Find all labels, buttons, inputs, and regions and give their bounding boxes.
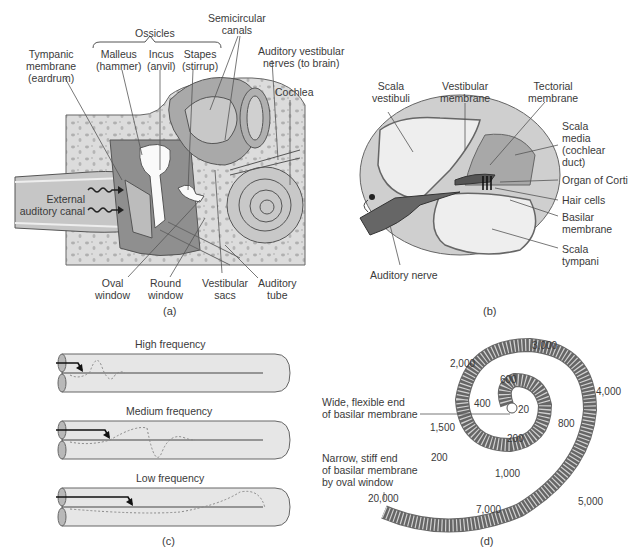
label-vestibular-membrane: Vestibular membrane	[440, 80, 490, 104]
freq-800: 800	[558, 418, 575, 429]
freq-2000: 2,000	[450, 358, 475, 369]
label-basilar-membrane: Basilar membrane	[562, 211, 612, 235]
label-ossicles: Ossicles	[135, 27, 175, 39]
panel-c-frequency-tubes	[56, 354, 290, 526]
freq-1000: 1,000	[495, 468, 520, 479]
caption-d: (d)	[480, 535, 493, 547]
freq-20000: 20,000	[368, 493, 399, 504]
caption-a: (a)	[163, 305, 176, 317]
tube-high	[56, 354, 290, 392]
label-auditory-tube: Auditory tube	[258, 277, 297, 301]
label-wide-end: Wide, flexible end of basilar membrane	[322, 396, 418, 420]
panel-b-cochlea-cross-section	[360, 95, 560, 265]
label-cochlea: Cochlea	[275, 86, 314, 98]
label-auditory-nerve: Auditory nerve	[370, 269, 438, 281]
label-scala-tympani: Scala tympani	[562, 243, 599, 267]
freq-1500: 1,500	[430, 422, 455, 433]
freq-600: 600	[500, 374, 517, 385]
label-oval-window: Oval window	[95, 277, 130, 301]
freq-5000: 5,000	[578, 496, 603, 507]
label-semicircular-canals: Semicircular canals	[208, 12, 266, 36]
freq-200: 200	[507, 433, 524, 444]
label-medium-frequency: Medium frequency	[126, 405, 212, 417]
label-high-frequency: High frequency	[135, 338, 206, 350]
freq-4000: 4,000	[596, 386, 621, 397]
label-tectorial-membrane: Tectorial membrane	[528, 80, 578, 104]
label-narrow-end: Narrow, stiff end of basilar membrane by…	[322, 452, 418, 488]
label-hair-cells: Hair cells	[562, 194, 605, 206]
freq-3000: 3,000	[532, 340, 557, 351]
label-scala-vestibuli: Scala vestibuli	[372, 80, 410, 104]
label-external-auditory-canal: External auditory canal	[10, 193, 85, 217]
stray-200-label: 200	[431, 452, 448, 463]
tube-medium	[56, 421, 290, 459]
tube-low	[56, 488, 290, 526]
caption-c: (c)	[162, 535, 175, 547]
label-vestibular-sacs: Vestibular sacs	[202, 277, 248, 301]
label-incus: Incus (anvil)	[147, 48, 176, 72]
label-round-window: Round window	[148, 277, 183, 301]
label-scala-media: Scala media (cochlear duct)	[562, 120, 605, 168]
label-stapes: Stapes (stirrup)	[182, 48, 218, 72]
label-tympanic-membrane: Tympanic membrane (eardrum)	[26, 48, 76, 84]
label-malleus: Malleus (hammer)	[96, 48, 142, 72]
label-low-frequency: Low frequency	[136, 472, 204, 484]
panel-d-basilar-spiral	[384, 345, 590, 526]
freq-7000: 7,000	[476, 504, 501, 515]
caption-b: (b)	[483, 305, 496, 317]
label-auditory-vestibular-nerves: Auditory vestibular nerves (to brain)	[258, 45, 344, 69]
label-organ-of-corti: Organ of Corti	[562, 174, 628, 186]
freq-20: 20	[518, 404, 529, 415]
freq-400: 400	[474, 398, 491, 409]
